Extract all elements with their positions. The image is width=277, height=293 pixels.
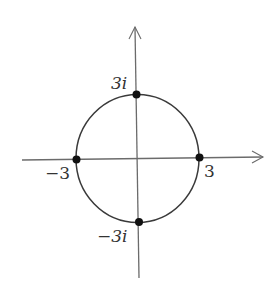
label-3: 3: [204, 163, 215, 180]
real-axis: [22, 157, 263, 160]
label-neg-3i: −3i: [97, 228, 128, 245]
point-3: [196, 154, 204, 162]
imaginary-axis: [135, 27, 139, 278]
point-neg-3i: [135, 218, 143, 226]
complex-plane-diagram: [0, 0, 277, 293]
point-neg-3: [73, 156, 81, 164]
point-3i: [133, 91, 141, 99]
label-3i: 3i: [111, 75, 127, 92]
label-neg-3: −3: [45, 165, 70, 182]
